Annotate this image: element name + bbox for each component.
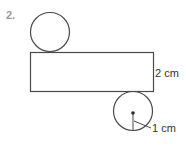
rectangle (31, 53, 154, 92)
top-circle (31, 13, 70, 52)
radius-label: 1 cm (152, 122, 176, 134)
height-label: 2 cm (155, 67, 179, 79)
